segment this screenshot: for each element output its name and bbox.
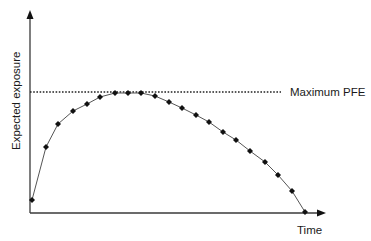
y-axis-arrow-icon xyxy=(27,10,34,19)
x-axis-arrow-icon xyxy=(317,210,326,217)
exposure-chart: Maximum PFE Time Expected exposure xyxy=(0,0,371,241)
maximum-pfe-label: Maximum PFE xyxy=(290,86,366,98)
data-point-marker-icon xyxy=(179,105,185,111)
x-axis-label: Time xyxy=(297,224,322,236)
data-point-marker-icon xyxy=(193,112,199,118)
y-axis-label: Expected exposure xyxy=(10,52,22,150)
data-point-marker-icon xyxy=(97,94,103,100)
data-point-marker-icon xyxy=(152,93,158,99)
data-point-marker-icon xyxy=(84,101,90,107)
data-markers xyxy=(29,90,308,215)
data-point-marker-icon xyxy=(138,90,144,96)
axes xyxy=(27,10,327,217)
data-point-marker-icon xyxy=(125,90,131,96)
data-point-marker-icon xyxy=(43,144,49,150)
data-point-marker-icon xyxy=(302,209,308,215)
data-point-marker-icon xyxy=(166,99,172,105)
data-point-marker-icon xyxy=(112,90,118,96)
